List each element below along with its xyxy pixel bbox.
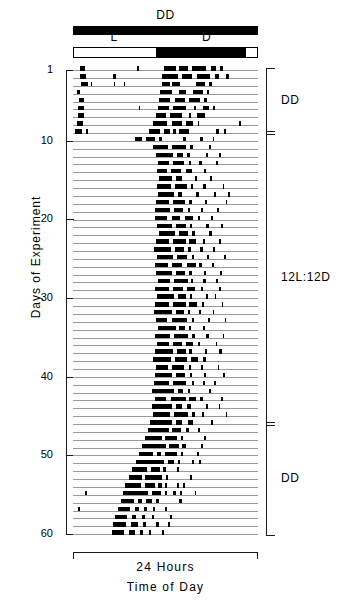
activity-bout	[207, 90, 209, 94]
activity-bout	[209, 82, 211, 86]
activity-bout	[173, 106, 185, 110]
activity-bout	[175, 357, 187, 361]
ld-bar-dark-segment	[156, 48, 246, 57]
activity-bout	[150, 420, 172, 424]
actogram-day-row	[73, 97, 258, 105]
activity-bout	[198, 121, 200, 125]
activity-bout	[202, 302, 204, 306]
activity-bout	[153, 121, 167, 125]
activity-bout	[211, 66, 216, 70]
activity-bout	[157, 255, 173, 259]
activity-bout	[221, 224, 223, 228]
y-axis-tick-label: 1	[0, 63, 62, 75]
actogram-day-row	[73, 380, 258, 388]
activity-bout	[179, 326, 184, 330]
activity-bout	[202, 412, 204, 416]
activity-bout	[172, 145, 187, 149]
condition-bracket	[266, 68, 275, 135]
actogram-day-row	[73, 246, 258, 254]
activity-bout	[171, 397, 186, 401]
activity-bout	[132, 515, 137, 519]
activity-bout	[172, 263, 182, 267]
activity-bout	[192, 318, 194, 322]
actogram-day-row	[73, 443, 258, 451]
activity-bout	[146, 499, 151, 503]
actogram-day-row	[73, 230, 258, 238]
activity-bout	[86, 129, 88, 133]
activity-bout	[192, 412, 194, 416]
actogram-day-row	[73, 175, 258, 183]
activity-bout	[205, 200, 207, 204]
actogram-day-row	[73, 435, 258, 443]
activity-bout	[189, 365, 191, 369]
activity-bout	[197, 113, 205, 117]
activity-bout	[226, 412, 228, 416]
activity-bout	[189, 161, 191, 165]
actogram-day-row	[73, 199, 258, 207]
day-baseline	[73, 471, 258, 472]
actogram-day-row	[73, 293, 258, 301]
activity-bout	[214, 192, 216, 196]
actogram-day-row	[73, 506, 258, 514]
activity-bout	[91, 82, 93, 86]
activity-bout	[181, 452, 183, 456]
activity-bout	[216, 342, 218, 346]
condition-bracket	[266, 131, 275, 426]
activity-bout	[155, 208, 170, 212]
activity-bout	[175, 184, 187, 188]
activity-bout	[170, 113, 182, 117]
activity-bout	[157, 224, 172, 228]
activity-bout	[175, 98, 185, 102]
activity-bout	[206, 294, 208, 298]
activity-bout	[223, 373, 225, 377]
activity-bout	[138, 499, 142, 503]
activity-bout	[209, 145, 211, 149]
activity-bout	[220, 271, 222, 275]
actogram-day-row	[73, 136, 258, 144]
actogram-day-row	[73, 301, 258, 309]
activity-bout	[158, 161, 170, 165]
activity-bout	[176, 176, 183, 180]
activity-bout	[172, 216, 180, 220]
activity-bout	[190, 475, 192, 479]
activity-bout	[213, 106, 215, 110]
activity-bout	[185, 216, 193, 220]
day-baseline	[73, 518, 258, 519]
activity-bout	[173, 287, 183, 291]
activity-bout	[176, 310, 184, 314]
activity-bout	[174, 412, 188, 416]
activity-bout	[176, 224, 186, 228]
activity-bout	[194, 106, 196, 110]
activity-bout	[196, 82, 205, 86]
activity-bout	[205, 349, 207, 353]
activity-bout	[135, 137, 143, 141]
activity-bout	[139, 452, 154, 456]
activity-bout	[197, 74, 210, 78]
activity-bout	[173, 342, 182, 346]
activity-bout	[200, 137, 202, 141]
actogram-day-row	[73, 333, 258, 341]
activity-bout	[176, 420, 182, 424]
activity-bout	[186, 428, 189, 432]
activity-bout	[156, 200, 168, 204]
activity-bout	[192, 460, 194, 464]
activity-bout	[173, 302, 186, 306]
activity-bout	[183, 483, 185, 487]
activity-bout	[77, 121, 83, 125]
actogram-day-row	[73, 277, 258, 285]
actogram-day-row	[73, 191, 258, 199]
activity-bout	[113, 74, 116, 78]
activity-bout	[190, 294, 192, 298]
activity-bout	[219, 349, 221, 353]
activity-bout	[156, 239, 169, 243]
activity-bout	[211, 420, 213, 424]
activity-bout	[146, 137, 154, 141]
activity-bout	[207, 255, 209, 259]
activity-bout	[219, 153, 221, 157]
activity-bout	[178, 192, 182, 196]
condition-label: DD	[281, 93, 300, 107]
activity-bout	[192, 66, 207, 70]
activity-bout	[164, 129, 170, 133]
actogram-day-row	[73, 490, 258, 498]
activity-bout	[188, 420, 193, 424]
